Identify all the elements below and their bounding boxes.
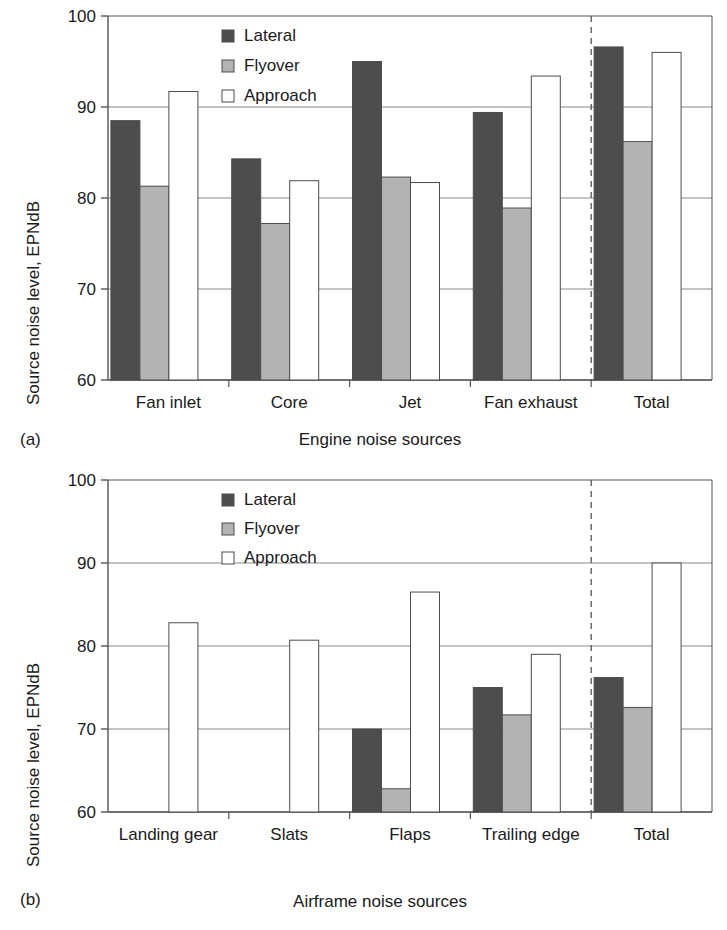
bar-flyover-fan-inlet bbox=[140, 186, 169, 380]
bar-flyover-total bbox=[623, 142, 652, 380]
bar-approach-landing-gear bbox=[169, 623, 198, 812]
y-tick-label: 70 bbox=[77, 720, 96, 739]
bar-lateral-fan-inlet bbox=[111, 121, 140, 380]
y-tick-label: 100 bbox=[68, 7, 96, 26]
bar-flyover-core bbox=[261, 223, 290, 380]
bar-lateral-total bbox=[594, 47, 623, 380]
y-tick-label: 80 bbox=[77, 189, 96, 208]
x-category-label: Core bbox=[271, 393, 308, 412]
legend-label-approach: Approach bbox=[244, 86, 317, 105]
bar-lateral-total bbox=[594, 678, 623, 812]
bar-lateral-fan-exhaust bbox=[473, 112, 502, 380]
legend-swatch-flyover bbox=[222, 60, 234, 72]
x-category-label: Trailing edge bbox=[482, 825, 580, 844]
x-category-label: Flaps bbox=[389, 825, 431, 844]
panel-tag-b: (b) bbox=[20, 890, 41, 910]
legend-swatch-flyover bbox=[222, 523, 234, 535]
legend-label-lateral: Lateral bbox=[244, 26, 296, 45]
bar-approach-core bbox=[290, 181, 319, 380]
bar-approach-trailing-edge bbox=[531, 654, 560, 812]
bar-flyover-trailing-edge bbox=[502, 715, 531, 812]
chart-panel-a: 60708090100Fan inletCoreJetFan exhaustTo… bbox=[0, 0, 727, 465]
bar-approach-slats bbox=[290, 640, 319, 812]
legend-swatch-lateral bbox=[222, 30, 234, 42]
figure-noise-source-levels: 60708090100Fan inletCoreJetFan exhaustTo… bbox=[0, 0, 727, 930]
bar-flyover-total bbox=[623, 707, 652, 812]
x-category-label: Landing gear bbox=[119, 825, 219, 844]
bar-approach-total bbox=[652, 52, 681, 380]
y-tick-label: 100 bbox=[68, 471, 96, 490]
bar-lateral-core bbox=[232, 159, 261, 380]
x-category-label: Jet bbox=[399, 393, 422, 412]
legend-label-approach: Approach bbox=[244, 548, 317, 567]
bar-flyover-fan-exhaust bbox=[502, 208, 531, 380]
legend-swatch-approach bbox=[222, 90, 234, 102]
legend-label-lateral: Lateral bbox=[244, 490, 296, 509]
x-axis-label-b: Airframe noise sources bbox=[190, 892, 570, 912]
bar-approach-total bbox=[652, 563, 681, 812]
legend-swatch-lateral bbox=[222, 494, 234, 506]
y-tick-label: 60 bbox=[77, 803, 96, 822]
x-category-label: Fan exhaust bbox=[484, 393, 578, 412]
x-category-label: Slats bbox=[270, 825, 308, 844]
y-tick-label: 90 bbox=[77, 554, 96, 573]
legend-label-flyover: Flyover bbox=[244, 519, 300, 538]
panel-tag-a: (a) bbox=[20, 430, 41, 450]
bar-approach-flaps bbox=[411, 592, 440, 812]
x-category-label: Total bbox=[634, 393, 670, 412]
y-tick-label: 60 bbox=[77, 371, 96, 390]
bar-approach-jet bbox=[411, 183, 440, 380]
chart-panel-b: 60708090100Landing gearSlatsFlapsTrailin… bbox=[0, 462, 727, 930]
y-axis-label-a: Source noise level, EPNdB bbox=[24, 201, 44, 405]
y-axis-label-b: Source noise level, EPNdB bbox=[24, 663, 44, 867]
legend-swatch-approach bbox=[222, 552, 234, 564]
x-category-label: Total bbox=[634, 825, 670, 844]
y-tick-label: 90 bbox=[77, 98, 96, 117]
bar-approach-fan-inlet bbox=[169, 92, 198, 380]
y-tick-label: 80 bbox=[77, 637, 96, 656]
bar-lateral-jet bbox=[353, 62, 382, 381]
x-category-label: Fan inlet bbox=[136, 393, 201, 412]
bar-approach-fan-exhaust bbox=[531, 76, 560, 380]
bar-lateral-flaps bbox=[353, 729, 382, 812]
bar-flyover-jet bbox=[382, 177, 411, 380]
chart-a-svg: 60708090100Fan inletCoreJetFan exhaustTo… bbox=[0, 0, 727, 465]
legend-label-flyover: Flyover bbox=[244, 56, 300, 75]
bar-lateral-trailing-edge bbox=[473, 688, 502, 813]
x-axis-label-a: Engine noise sources bbox=[190, 430, 570, 450]
bar-flyover-flaps bbox=[382, 789, 411, 812]
chart-b-svg: 60708090100Landing gearSlatsFlapsTrailin… bbox=[0, 462, 727, 930]
y-tick-label: 70 bbox=[77, 280, 96, 299]
